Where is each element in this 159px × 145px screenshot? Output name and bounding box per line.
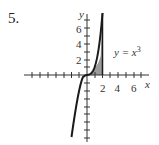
y-tick-label-2: 2 [76,54,82,66]
curve-label: y = x3 [113,45,141,58]
x-axis-label: x [144,78,150,90]
y-tick-label-4: 4 [76,38,82,50]
x-tick-label-6: 6 [131,82,137,94]
y-tick-label-6: 6 [76,23,82,35]
graph: 2 4 6 2 4 6 x y y = x3 [0,0,159,145]
y-axis-label: y [78,8,84,20]
x-tick-label-2: 2 [100,82,106,94]
x-tick-label-4: 4 [115,82,121,94]
